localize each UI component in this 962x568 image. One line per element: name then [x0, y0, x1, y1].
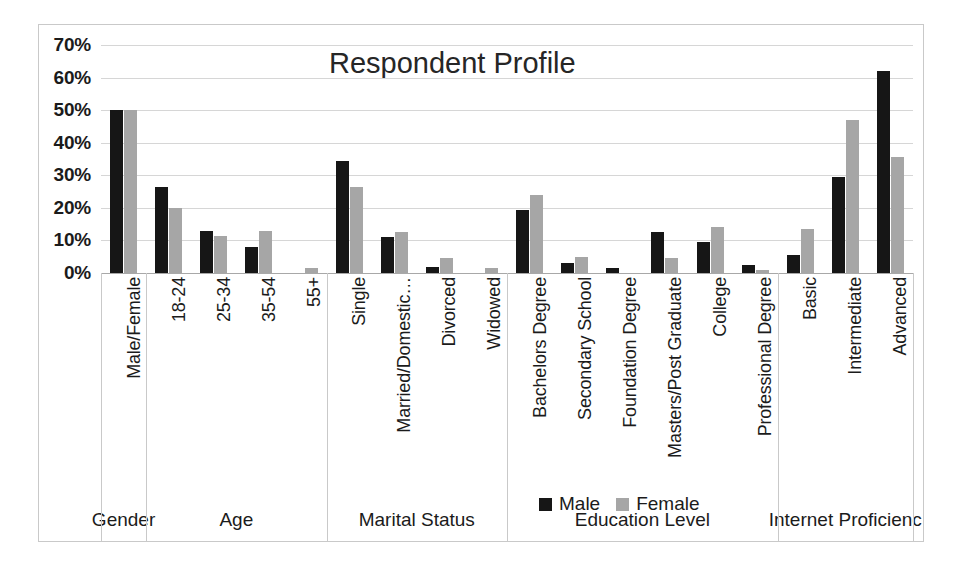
group-separator: [507, 273, 508, 541]
x-axis-tick-label: Basic: [800, 277, 821, 320]
bar-male-0: [110, 110, 123, 273]
legend-label: Female: [636, 493, 699, 515]
category-cell: Bachelors Degree: [507, 273, 552, 491]
category-cell: Advanced: [868, 273, 913, 491]
bar-male-12: [651, 232, 664, 273]
y-axis-tick-label: 50%: [54, 99, 91, 121]
bar-male-1: [155, 187, 168, 273]
category-cell: Widowed: [462, 273, 507, 491]
category-cell: Secondary School: [552, 273, 597, 491]
bar-female-5: [350, 187, 363, 273]
x-axis-tick-label: Bachelors Degree: [530, 277, 551, 418]
category-cell: Married/Domestic…: [372, 273, 417, 491]
x-axis-tick-label: Married/Domestic…: [394, 277, 415, 433]
gridline: [101, 208, 913, 209]
bar-male-17: [877, 71, 890, 273]
x-axis-tick-label: Foundation Degree: [620, 277, 641, 428]
bar-male-9: [516, 210, 529, 274]
gridline: [101, 110, 913, 111]
legend-swatch-icon: [539, 498, 552, 511]
legend-entry-male: Male: [539, 493, 600, 515]
x-axis-tick-label: Male/Female: [124, 277, 145, 379]
group-cell: Marital Status: [327, 491, 507, 541]
bar-female-6: [395, 232, 408, 273]
y-axis-tick-label: 40%: [54, 132, 91, 154]
x-axis-tick-label: Masters/Post Graduate: [665, 277, 686, 458]
y-axis-tick-label: 70%: [54, 34, 91, 56]
x-axis-tick-label: Advanced: [890, 277, 911, 355]
x-axis-tick-label: Single: [349, 277, 370, 326]
bar-female-2: [214, 236, 227, 273]
bar-male-15: [787, 255, 800, 273]
x-axis-tick-label: 25-34: [214, 277, 235, 322]
legend-entry-female: Female: [616, 493, 699, 515]
x-axis-tick-label: 55+: [304, 277, 325, 307]
bar-male-14: [742, 265, 755, 273]
category-cell: Professional Degree: [733, 273, 778, 491]
gridline: [101, 45, 913, 46]
category-cell: 25-34: [191, 273, 236, 491]
y-axis-tick-label: 20%: [54, 197, 91, 219]
group-label: Internet Proficienc: [769, 509, 922, 531]
x-axis-tick-label: Divorced: [439, 277, 460, 346]
category-cell: Masters/Post Graduate: [642, 273, 687, 491]
category-cell: Male/Female: [101, 273, 146, 491]
category-cell: 18-24: [146, 273, 191, 491]
bar-male-6: [381, 237, 394, 273]
group-separator: [146, 273, 147, 541]
bar-male-16: [832, 177, 845, 273]
x-axis-tick-label: Intermediate: [845, 277, 866, 375]
x-axis-tick-label: College: [710, 277, 731, 337]
bar-female-17: [891, 157, 904, 273]
category-cell: 35-54: [236, 273, 281, 491]
gridline: [101, 175, 913, 176]
bar-female-12: [665, 258, 678, 273]
bar-male-10: [561, 263, 574, 273]
legend-label: Male: [559, 493, 600, 515]
category-cell: Single: [327, 273, 372, 491]
bar-male-2: [200, 231, 213, 273]
y-axis-tick-label: 30%: [54, 164, 91, 186]
bar-male-13: [697, 242, 710, 273]
category-cell: Divorced: [417, 273, 462, 491]
bar-male-3: [245, 247, 258, 273]
bar-female-13: [711, 227, 724, 273]
y-axis-tick-label: 60%: [54, 67, 91, 89]
chart-legend: MaleFemale: [539, 493, 700, 515]
category-cell: College: [687, 273, 732, 491]
bar-female-1: [169, 208, 182, 273]
bar-female-3: [259, 231, 272, 273]
bar-female-10: [575, 257, 588, 273]
bar-female-9: [530, 195, 543, 273]
gridline: [101, 78, 913, 79]
bar-female-15: [801, 229, 814, 273]
group-label: Marital Status: [359, 509, 475, 531]
category-cell: 55+: [281, 273, 326, 491]
chart-frame: 0%10%20%30%40%50%60%70% Respondent Profi…: [38, 24, 924, 542]
y-axis: 0%10%20%30%40%50%60%70%: [39, 45, 97, 273]
x-axis-tick-label: 18-24: [169, 277, 190, 322]
group-separator: [327, 273, 328, 541]
category-cell: Foundation Degree: [597, 273, 642, 491]
x-axis-tick-label: Professional Degree: [755, 277, 776, 436]
group-separator: [913, 273, 914, 541]
bar-male-5: [336, 161, 349, 273]
bar-female-16: [846, 120, 859, 273]
plot-area: [101, 45, 913, 273]
x-axis-tick-label: Secondary School: [575, 277, 596, 420]
group-cell: Gender: [101, 491, 146, 541]
group-label: Age: [219, 509, 253, 531]
group-cell: Age: [146, 491, 326, 541]
group-separator: [101, 273, 102, 541]
group-separator: [778, 273, 779, 541]
category-cell: Intermediate: [823, 273, 868, 491]
group-cell: Internet Proficienc: [778, 491, 913, 541]
legend-swatch-icon: [616, 498, 629, 511]
y-axis-tick-label: 10%: [54, 229, 91, 251]
x-axis-tick-label: 35-54: [259, 277, 280, 322]
x-axis-tick-label: Widowed: [484, 277, 505, 350]
category-cell: Basic: [778, 273, 823, 491]
bar-female-7: [440, 258, 453, 273]
gridline: [101, 143, 913, 144]
bar-female-0: [124, 110, 137, 273]
